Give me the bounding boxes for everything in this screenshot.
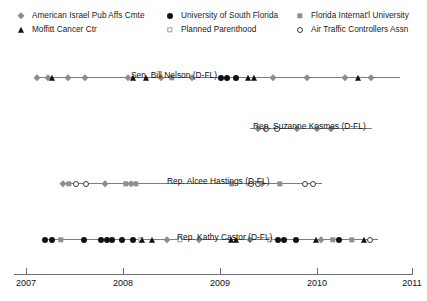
data-point[interactable] [63, 72, 73, 84]
open-circle-icon [73, 181, 79, 187]
timeline-scatter-chart: American Israel Pub Affs CmteMoffitt Can… [0, 0, 427, 301]
gray-square-icon [297, 13, 302, 18]
data-point[interactable] [275, 178, 285, 190]
data-point[interactable] [80, 72, 90, 84]
legend-item-label: Air Traffic Controllers Assn [311, 25, 408, 35]
gray-square-icon [58, 237, 63, 242]
legend-item-label: American Israel Pub Affs Cmte [32, 11, 145, 21]
gray-square-icon [133, 181, 138, 186]
data-point[interactable] [231, 72, 241, 84]
data-point[interactable] [366, 72, 376, 84]
data-point[interactable] [279, 234, 289, 246]
black-triangle-icon [149, 236, 155, 242]
axis-tick-label: 2007 [16, 278, 36, 288]
data-point[interactable] [316, 234, 326, 246]
legend-item-label: Moffitt Cancer Ctr [32, 25, 97, 35]
axis-tick-label: 2009 [210, 278, 230, 288]
axis-tick-label: 2008 [113, 278, 133, 288]
gray-diamond-icon [64, 74, 72, 82]
data-point[interactable] [79, 234, 89, 246]
series-label: Rep. Suzanne Kosmas (D-FL) [253, 121, 366, 131]
black-circle-icon [224, 75, 230, 81]
series-label: Sen. Bill Nelson (D-FL) [131, 70, 217, 80]
data-point[interactable] [100, 178, 110, 190]
black-circle-icon [281, 237, 287, 243]
legend-item[interactable]: University of South Florida [163, 10, 278, 22]
black-circle-icon [167, 13, 173, 19]
black-circle-icon [81, 237, 87, 243]
black-circle-icon [49, 237, 55, 243]
data-point[interactable] [302, 72, 312, 84]
open-circle-icon [83, 181, 89, 187]
legend-item[interactable]: American Israel Pub Affs Cmte [14, 10, 145, 22]
open-square-icon [167, 27, 172, 32]
black-circle-icon [233, 75, 239, 81]
series-label: Rep. Kathy Castor (D-FL) [177, 232, 272, 242]
data-point[interactable] [137, 234, 147, 246]
black-triangle-icon [139, 236, 145, 242]
data-point[interactable] [107, 234, 117, 246]
series-row: Rep. Alcee Hastings (D-FL) [0, 172, 427, 212]
axis-tick [26, 268, 27, 275]
black-triangle-icon [355, 74, 361, 80]
series-row: Rep. Suzanne Kosmas (D-FL) [0, 117, 427, 157]
data-point[interactable] [162, 234, 172, 246]
gray-diamond-icon [269, 74, 277, 82]
axis-tick [220, 268, 221, 275]
data-point[interactable] [117, 234, 127, 246]
data-point[interactable] [32, 72, 42, 84]
legend-item[interactable]: Air Traffic Controllers Assn [293, 24, 408, 36]
axis-tick [412, 268, 413, 275]
gray-square-icon [349, 237, 354, 242]
data-point[interactable] [71, 178, 81, 190]
axis-tick [123, 268, 124, 275]
axis-tick [317, 268, 318, 275]
gray-diamond-icon [303, 74, 311, 82]
data-point[interactable] [268, 72, 278, 84]
gray-diamond-icon [163, 236, 171, 244]
data-point[interactable] [353, 72, 363, 84]
legend-item[interactable]: Moffitt Cancer Ctr [14, 24, 97, 36]
gray-diamond-icon [341, 74, 349, 82]
axis-tick-label: 2010 [307, 278, 327, 288]
series-row: Sen. Bill Nelson (D-FL) [0, 66, 427, 106]
legend-item-label: University of South Florida [181, 11, 278, 21]
black-circle-icon [109, 237, 115, 243]
plot-area: Sen. Bill Nelson (D-FL)Rep. Suzanne Kosm… [0, 44, 427, 268]
black-circle-icon [336, 237, 342, 243]
black-triangle-icon [18, 27, 24, 33]
data-point[interactable] [347, 234, 357, 246]
gray-diamond-icon [317, 236, 325, 244]
open-circle-icon [310, 181, 316, 187]
gray-diamond-icon [17, 12, 25, 20]
open-circle-icon [297, 27, 303, 33]
legend-marker [163, 10, 177, 22]
data-point[interactable] [308, 178, 318, 190]
legend: American Israel Pub Affs CmteMoffitt Can… [0, 6, 427, 42]
data-point[interactable] [56, 234, 66, 246]
legend-item-label: Florida Internat'l University [311, 11, 409, 21]
black-triangle-icon [251, 74, 257, 80]
data-point[interactable] [249, 72, 259, 84]
data-point[interactable] [291, 234, 301, 246]
data-point[interactable] [131, 178, 141, 190]
data-point[interactable] [147, 234, 157, 246]
data-point[interactable] [47, 72, 57, 84]
legend-marker [293, 10, 307, 22]
legend-item-label: Planned Parenthood [181, 25, 256, 35]
gray-square-icon [277, 181, 282, 186]
series-row: Rep. Kathy Castor (D-FL) [0, 228, 427, 268]
open-circle-icon [367, 237, 373, 243]
black-triangle-icon [49, 74, 55, 80]
legend-marker [293, 24, 307, 36]
axis-tick-label: 2011 [402, 278, 421, 288]
legend-item[interactable]: Florida Internat'l University [293, 10, 409, 22]
gray-diamond-icon [101, 180, 109, 188]
data-point[interactable] [365, 234, 375, 246]
data-point[interactable] [334, 234, 344, 246]
legend-marker [14, 10, 28, 22]
legend-item[interactable]: Planned Parenthood [163, 24, 256, 36]
data-point[interactable] [340, 72, 350, 84]
series-label: Rep. Alcee Hastings (D-FL) [167, 176, 269, 186]
data-point[interactable] [81, 178, 91, 190]
